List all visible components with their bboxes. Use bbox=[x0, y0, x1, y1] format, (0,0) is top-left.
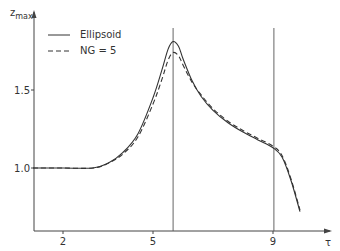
x-tick-label: 2 bbox=[60, 236, 66, 247]
legend-item-ng5: NG = 5 bbox=[80, 45, 116, 56]
y-tick-label: 1.5 bbox=[14, 85, 30, 96]
chart: 2591.01.5 zmax τ Ellipsoid NG = 5 bbox=[0, 0, 340, 251]
axes bbox=[32, 10, 333, 234]
plot-series bbox=[33, 42, 300, 212]
legend: Ellipsoid NG = 5 bbox=[48, 29, 121, 56]
y-axis-label: zmax bbox=[10, 7, 33, 21]
legend-item-ellipsoid: Ellipsoid bbox=[80, 29, 121, 40]
series-line-dashed bbox=[33, 52, 300, 210]
x-tick-label: 9 bbox=[270, 236, 276, 247]
series-line-solid bbox=[33, 42, 300, 212]
vertical-reference-lines bbox=[173, 28, 274, 231]
x-tick-label: 5 bbox=[150, 236, 156, 247]
x-axis-arrow-icon bbox=[324, 229, 332, 234]
x-axis-label: τ bbox=[325, 237, 331, 248]
y-tick-label: 1.0 bbox=[14, 163, 30, 174]
tick-labels: 2591.01.5 bbox=[14, 85, 276, 248]
